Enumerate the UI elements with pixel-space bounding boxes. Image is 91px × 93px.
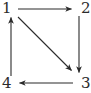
node-label-1: 1 bbox=[2, 1, 12, 16]
directed-graph-figure: 1 2 3 4 bbox=[0, 0, 91, 93]
node-label-4: 4 bbox=[2, 76, 12, 91]
node-label-2: 2 bbox=[81, 1, 91, 16]
graph-canvas bbox=[0, 0, 91, 93]
edge-1-to-3 bbox=[18, 17, 72, 71]
node-label-3: 3 bbox=[81, 76, 91, 91]
